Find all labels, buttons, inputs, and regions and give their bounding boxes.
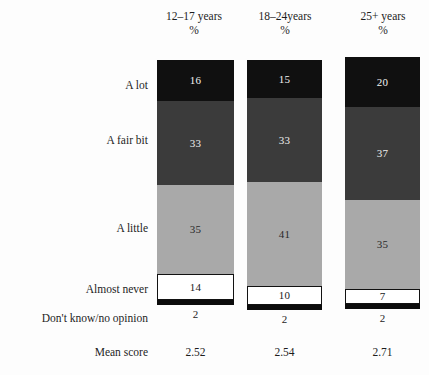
bar-segment-a-little: 41: [247, 182, 322, 286]
column-header-unit: %: [148, 24, 240, 38]
row-label-a-little: A little: [116, 222, 148, 235]
row-label-a-lot: A lot: [125, 79, 148, 92]
bar-segment-value: 33: [190, 138, 201, 149]
bar-segment-value: 10: [279, 290, 290, 301]
row-label-group: A lot A fair bit A little Almost never D…: [0, 0, 148, 375]
bar-segment-a-fair-bit: 33: [247, 98, 322, 182]
bar-segment-dont-know: 2: [157, 300, 234, 305]
bar-segment-value: 35: [190, 224, 201, 235]
column-header-12-17: 12–17 years %: [148, 10, 240, 37]
row-label-almost-never: Almost never: [86, 283, 148, 296]
row-label-dont-know: Don't know/no opinion: [42, 312, 148, 325]
bar-segment-value: 37: [377, 148, 388, 159]
bar-segment-value: 15: [279, 74, 290, 85]
row-label-a-fair-bit: A fair bit: [106, 134, 148, 147]
bar-segment-a-fair-bit: 37: [345, 107, 420, 200]
mean-score-value: 2.71: [345, 346, 420, 358]
bar-segment-a-little: 35: [345, 200, 420, 289]
bar-segment-dont-know: 2: [247, 305, 322, 310]
dont-know-value: 2: [345, 313, 420, 324]
bar-column-12-17: 16 33 35 14 2 2 2.52: [157, 60, 234, 305]
mean-score-value: 2.54: [247, 346, 322, 358]
bar-segment-almost-never: 10: [247, 286, 322, 305]
bar-segment-value: 41: [279, 229, 290, 240]
column-header-25-plus: 25+ years %: [337, 10, 429, 37]
bar-segment-dont-know: 2: [345, 304, 420, 309]
bar-segment-a-fair-bit: 33: [157, 101, 234, 185]
row-label-mean-score: Mean score: [95, 346, 148, 359]
bar-segment-value: 35: [377, 239, 388, 250]
bar-column-25-plus: 20 37 35 7 2 2 2.71: [345, 57, 420, 310]
bar-column-18-24: 15 33 41 10 2 2 2.54: [247, 60, 322, 305]
bar-segment-a-lot: 16: [157, 60, 234, 101]
bar-segment-almost-never: 14: [157, 274, 234, 300]
column-header-18-24: 18–24years %: [239, 10, 331, 37]
bar-segment-a-little: 35: [157, 185, 234, 274]
bar-segment-a-lot: 20: [345, 57, 420, 107]
dont-know-value: 2: [157, 309, 234, 320]
column-header-label: 12–17 years: [148, 10, 240, 24]
column-header-label: 25+ years: [337, 10, 429, 24]
bar-segment-value: 16: [190, 75, 201, 86]
bar-segment-almost-never: 7: [345, 289, 420, 304]
column-header-label: 18–24years: [239, 10, 331, 24]
column-header-unit: %: [337, 24, 429, 38]
mean-score-value: 2.52: [157, 346, 234, 358]
bar-segment-value: 33: [279, 135, 290, 146]
bar-segment-value: 20: [377, 77, 388, 88]
dont-know-value: 2: [247, 314, 322, 325]
bar-segment-a-lot: 15: [247, 60, 322, 98]
column-header-unit: %: [239, 24, 331, 38]
bar-segment-value: 14: [190, 282, 201, 293]
bar-segment-value: 7: [380, 291, 386, 302]
stacked-bar-chart: 12–17 years % 18–24years % 25+ years % A…: [0, 0, 429, 375]
